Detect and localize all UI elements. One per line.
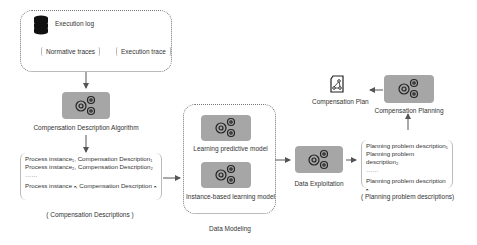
learning-predictive-model-label: Learning predictive model (184, 145, 277, 152)
data-exploitation-box (295, 146, 343, 173)
compensation-description-2: Process instance₂, Compensation Descript… (25, 163, 157, 171)
compensation-description-1: Process instance₁, Compensation Descript… (25, 155, 157, 163)
compensation-description-algorithm-label: Compensation Description Algorithm (26, 124, 146, 131)
gears-icon (73, 95, 99, 117)
data-modeling-box: Learning predictive model Instance-based… (183, 104, 276, 214)
instance-based-learning-model-label: Instance-based learning model (184, 193, 277, 200)
execution-log-box: Execution log Normative traces Execution… (20, 10, 172, 72)
planning-problem-description-n: Planning problem description ₙ (366, 177, 448, 193)
instance-based-learning-model-box (201, 162, 251, 188)
gears-icon (396, 78, 422, 100)
compensation-description-ellipsis: …… (25, 171, 157, 179)
compensation-plan-label: Compensation Plan (312, 98, 367, 105)
compensation-description-algorithm-box (62, 92, 110, 119)
learning-predictive-model-box (201, 115, 251, 141)
data-modeling-caption: Data Modeling (200, 225, 260, 232)
gears-icon (306, 149, 332, 171)
compensation-description-n: Process instance ₙ, Compensation Descrip… (25, 182, 157, 190)
database-icon (33, 15, 49, 35)
gears-icon (213, 117, 239, 139)
gears-icon (213, 164, 239, 186)
data-exploitation-label: Data Exploitation (289, 180, 349, 187)
compensation-planning-label: Compensation Planning (374, 107, 444, 114)
planning-problem-description-1: Planning problem description₁ (366, 142, 448, 150)
planning-problem-descriptions-caption: ( Planning problem descriptions) (361, 193, 453, 200)
execution-trace-item: Execution trace (116, 47, 171, 56)
planning-problem-descriptions-list: Planning problem description₁ Planning p… (361, 140, 453, 188)
planning-problem-description-ellipsis: …… (366, 166, 448, 174)
execution-log-title: Execution log (55, 20, 94, 27)
planning-problem-description-2: Planning problem description₂ (366, 150, 448, 166)
normative-traces-item: Normative traces (41, 47, 100, 56)
plan-document-icon (330, 75, 344, 93)
compensation-descriptions-caption: ( Compensation Descriptions ) (40, 211, 140, 218)
compensation-planning-box (384, 75, 434, 103)
compensation-descriptions-list: Process instance₁, Compensation Descript… (20, 153, 162, 200)
